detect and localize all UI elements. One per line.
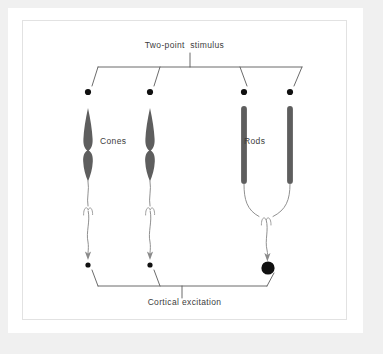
cone-1-axon-lower — [87, 211, 88, 253]
bracket-leg-bottom-2 — [154, 270, 160, 286]
stimulus-dot-cone-1 — [85, 89, 91, 95]
cortical-dots — [85, 261, 274, 274]
rod-2 — [266, 106, 293, 225]
rod-1-axon — [244, 184, 259, 217]
stimulus-dot-rod-2 — [287, 89, 293, 95]
stimulus-dot-rod-1 — [241, 89, 247, 95]
cone-1-body — [83, 108, 93, 182]
diagram-canvas — [22, 20, 347, 320]
bracket-leg-bottom-1 — [92, 270, 98, 286]
cortical-excitation-label: Cortical excitation — [22, 297, 347, 307]
stimulus-dots — [85, 89, 293, 95]
cone-2-synapse-icon — [146, 208, 151, 215]
cone-1 — [83, 108, 93, 260]
cone-2-axon-lower — [149, 211, 150, 253]
cone-2 — [145, 108, 155, 260]
rods-label: Rods — [244, 136, 265, 146]
cone-1-synapse-icon — [84, 208, 89, 215]
rod-2-axon — [273, 184, 290, 217]
cones-label: Cones — [100, 136, 126, 146]
rod-1 — [241, 106, 266, 225]
rod-2-body — [287, 106, 293, 184]
stimulus-dot-cone-2 — [147, 89, 153, 95]
cone-2-axon — [150, 181, 151, 206]
two-point-stimulus-diagram: Two-point stimulus Cones Rods Cortical e… — [22, 20, 347, 320]
cortical-dot-cone-2 — [147, 262, 152, 267]
cortical-dot-cone-1 — [85, 262, 90, 267]
rod-convergent-axon — [264, 220, 270, 262]
page-title: Two-point stimulus — [22, 40, 347, 50]
cone-2-body — [145, 108, 155, 182]
rod-shared-axon — [266, 220, 267, 258]
bracket-leg-top-2 — [154, 67, 160, 86]
bracket-leg-top-4 — [294, 67, 302, 86]
bracket-leg-bottom-3 — [267, 273, 274, 286]
cone-1-axon — [88, 181, 89, 206]
rod-1-synapse-icon — [261, 218, 266, 225]
cortical-dot-rods-merged — [261, 261, 274, 274]
cortical-excitation-bracket — [92, 270, 274, 298]
bracket-leg-top-1 — [92, 67, 98, 86]
two-point-stimulus-bracket — [92, 53, 302, 86]
figure-page: Two-point stimulus Cones Rods Cortical e… — [0, 0, 383, 354]
bracket-leg-top-3 — [240, 67, 247, 86]
